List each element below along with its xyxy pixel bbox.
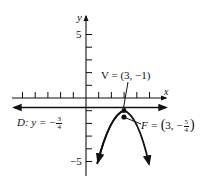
directrix-label: D: y = −34 [17,116,63,131]
graph-canvas [0,0,210,185]
y-axis-label: y [77,12,82,23]
focus-x: 3 [165,119,171,131]
parabola-diagram: y x 5 −5 V = (3, −1) D: y = −34 F = (3, … [0,0,210,185]
directrix-denominator: 4 [56,124,62,131]
vertex-label: V = (3, −1) [101,70,150,81]
vertex-point [122,108,127,113]
vertex-label-text: V = (3, −1) [101,69,150,81]
directrix-label-prefix: D: y = [17,116,49,128]
y-axis [86,16,92,176]
y-tick-label-neg5: −5 [70,156,82,167]
y-tick-label-5: 5 [76,29,82,40]
focus-point [121,114,126,119]
focus-label: F = (3, −54) [141,118,195,134]
focus-sign: − [176,119,182,131]
focus-denominator: 4 [184,127,190,134]
focus-label-prefix: F = [141,119,161,131]
directrix-sign: − [49,116,55,128]
directrix-fraction: 34 [56,116,62,131]
x-axis-label: x [164,87,168,97]
x-axis [12,92,166,98]
focus-fraction: 54 [184,119,190,134]
